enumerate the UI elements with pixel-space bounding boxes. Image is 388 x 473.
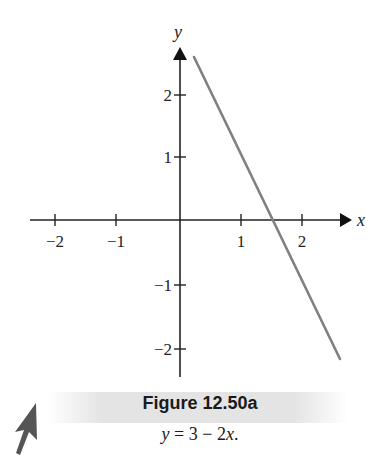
x-axis-label: x xyxy=(356,210,365,230)
x-tick-label: −1 xyxy=(107,232,125,251)
x-tick-label: 1 xyxy=(237,232,246,251)
x-tick-label: 2 xyxy=(298,232,307,251)
arrow-cursor-icon xyxy=(12,400,40,456)
figure-caption-title: Figure 12.50a xyxy=(0,393,388,414)
chart-plot: x y −2 −1 1 2 2 1 −1 −2 xyxy=(0,0,388,390)
y-tick-label: −2 xyxy=(154,340,172,359)
figure-caption-equation: y = 3 − 2x. xyxy=(0,424,388,445)
y-axis-arrow-icon xyxy=(173,47,187,60)
y-tick-label: −1 xyxy=(154,276,172,295)
data-line xyxy=(194,57,340,359)
y-axis-label: y xyxy=(172,22,182,42)
x-tick-label: −2 xyxy=(46,232,64,251)
y-tick-label: 2 xyxy=(164,86,173,105)
y-tick-label: 1 xyxy=(164,148,173,167)
x-axis-arrow-icon xyxy=(340,213,352,227)
